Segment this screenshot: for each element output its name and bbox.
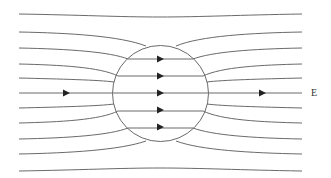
field-line — [19, 64, 118, 76]
field-line — [176, 32, 302, 46]
field-line — [19, 14, 302, 17]
field-line — [207, 78, 302, 82]
field-line — [203, 64, 302, 76]
arrow-right-icon — [157, 90, 164, 97]
field-line — [193, 128, 302, 139]
arrow-right-icon — [157, 73, 164, 80]
field-line — [19, 111, 118, 123]
arrow-right-icon — [63, 90, 70, 97]
field-line — [19, 32, 146, 46]
field-line — [19, 168, 302, 171]
field-line — [207, 104, 302, 108]
field-line — [19, 104, 114, 108]
arrow-right-icon — [157, 124, 164, 131]
field-diagram — [0, 0, 331, 178]
field-line — [176, 141, 302, 154]
field-line — [193, 48, 302, 59]
field-line — [19, 128, 128, 139]
field-line — [19, 78, 114, 82]
field-line — [19, 141, 146, 154]
arrow-right-icon — [259, 90, 266, 97]
field-line — [203, 111, 302, 123]
field-label-e: E — [311, 87, 317, 98]
arrow-right-icon — [157, 107, 164, 114]
field-line — [19, 48, 128, 59]
arrow-right-icon — [157, 56, 164, 63]
